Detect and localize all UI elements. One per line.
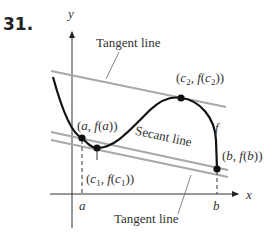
point-b-label: (b, f(b))	[222, 148, 262, 163]
mean-value-theorem-figure: 31. y x Tangent line Secant line Tangent…	[0, 0, 272, 236]
point-b	[213, 165, 220, 172]
point-c1-label: (c1, f(c1))	[86, 171, 134, 188]
tick-b-label: b	[213, 198, 220, 213]
secant-label: Secant line	[134, 123, 193, 150]
function-label: f	[215, 120, 221, 135]
tangent-bottom-label: Tangent line	[114, 211, 179, 226]
point-c1	[93, 144, 100, 151]
y-axis-label: y	[66, 6, 74, 21]
point-a-label: (a, f(a))	[77, 118, 117, 133]
tick-a-label: a	[79, 198, 86, 213]
tangent-top-label: Tangent line	[96, 35, 161, 50]
x-axis-label: x	[245, 187, 252, 202]
point-c2	[177, 94, 184, 101]
point-a	[78, 134, 85, 141]
tangent-top-leader	[106, 52, 119, 79]
diagram-canvas: 31. y x Tangent line Secant line Tangent…	[0, 0, 272, 236]
problem-number: 31.	[3, 14, 33, 34]
tangent-line-bottom	[51, 140, 228, 177]
point-c2-label: (c2, f(c2))	[176, 70, 224, 87]
